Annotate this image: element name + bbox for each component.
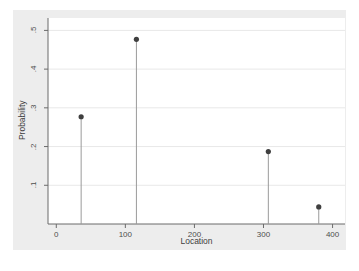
y-tick-mark-group	[44, 30, 48, 185]
y-tick-label: .2	[30, 137, 38, 157]
chart-figure: .1.2.3.4.5 0100200300400 Probability Loc…	[0, 0, 359, 271]
data-point-marker	[266, 149, 271, 154]
x-tick-label: 0	[36, 231, 76, 239]
y-tick-label: .4	[30, 59, 38, 79]
data-point-marker	[79, 114, 84, 119]
y-tick-label: .3	[30, 98, 38, 118]
y-tick-label: .5	[30, 20, 38, 40]
x-tick-label: 400	[313, 231, 353, 239]
y-axis-title: Probability	[18, 60, 27, 180]
data-point-marker	[316, 204, 321, 209]
x-tick-mark-group	[56, 224, 332, 228]
y-tick-label: .1	[30, 175, 38, 195]
gridline-group	[48, 30, 345, 185]
data-point-group	[79, 37, 322, 210]
x-axis-title: Location	[97, 237, 297, 246]
axis-line-group	[48, 18, 345, 224]
stem-line-group	[81, 39, 319, 224]
data-point-marker	[134, 37, 139, 42]
